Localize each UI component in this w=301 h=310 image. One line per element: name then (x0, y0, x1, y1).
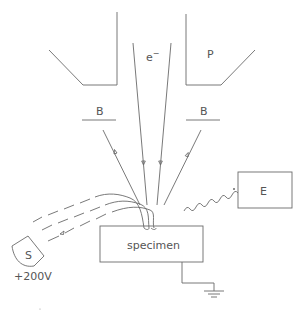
bias-voltage-label: +200V (14, 270, 52, 283)
baffle-left-label: B (96, 105, 104, 118)
pole-piece-label: P (207, 48, 214, 61)
sem-diagram: P e− B B (0, 0, 301, 310)
stray-dot (39, 308, 40, 309)
detector-s-label: S (25, 249, 32, 262)
detector-e-label: E (260, 185, 267, 198)
baffle-right-label: B (200, 105, 208, 118)
secondary-electron-paths (33, 194, 156, 241)
backscattered-rays (103, 130, 201, 205)
electron-label: e− (146, 49, 159, 64)
pole-piece-left (49, 12, 117, 85)
ground-symbol (182, 262, 224, 297)
xray-wave (184, 188, 238, 211)
pole-piece-right (186, 14, 255, 85)
specimen-label: specimen (127, 239, 180, 252)
incident-beam (133, 43, 171, 205)
